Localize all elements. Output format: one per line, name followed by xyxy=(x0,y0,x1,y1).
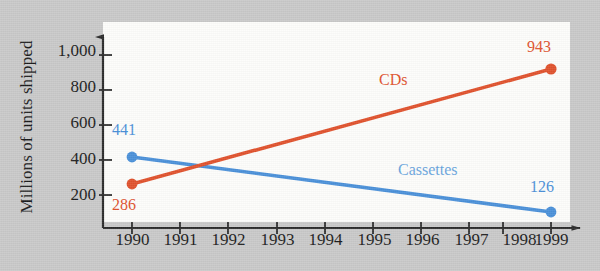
chart-figure: Millions of units shipped 1,000 800 600 … xyxy=(0,0,600,271)
x-tick-label-1995: 1995 xyxy=(347,230,402,250)
cds-end-value-label: 943 xyxy=(527,38,551,56)
cassettes-series-label: Cassettes xyxy=(398,161,458,179)
cds-point-1999 xyxy=(545,63,556,74)
x-tick-label-1990: 1990 xyxy=(105,230,160,250)
x-tick-label-1996: 1996 xyxy=(395,230,450,250)
cassettes-end-value-label: 126 xyxy=(530,178,554,196)
y-tick-label-200: 200 xyxy=(30,185,96,205)
y-tick-label-1000: 1,000 xyxy=(30,41,96,61)
cassettes-point-1999 xyxy=(546,207,557,218)
cds-line xyxy=(132,69,551,184)
cds-start-value-label: 286 xyxy=(112,196,136,214)
y-axis-tick-labels: 1,000 800 600 400 200 xyxy=(28,0,96,271)
y-tick-label-400: 400 xyxy=(30,149,96,169)
cds-series-label: CDs xyxy=(379,71,407,89)
cds-point-1990 xyxy=(127,179,138,190)
x-tick-label-1991: 1991 xyxy=(153,230,208,250)
x-tick-label-1999: 1999 xyxy=(524,230,579,250)
y-tick-label-600: 600 xyxy=(30,113,96,133)
x-tick-label-1994: 1994 xyxy=(298,230,353,250)
x-tick-label-1993: 1993 xyxy=(250,230,305,250)
x-tick-label-1997: 1997 xyxy=(444,230,499,250)
y-axis-ticks xyxy=(99,55,112,195)
x-tick-label-1992: 1992 xyxy=(201,230,256,250)
cassettes-point-1990 xyxy=(127,152,138,163)
cassettes-start-value-label: 441 xyxy=(112,121,136,139)
y-tick-label-800: 800 xyxy=(30,77,96,97)
